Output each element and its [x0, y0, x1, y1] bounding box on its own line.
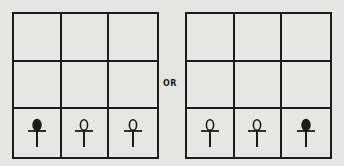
cell-r3-c1 [14, 109, 62, 157]
ankh-hollow-icon [247, 118, 267, 148]
cell-r1-c1 [187, 14, 235, 62]
cell-r3-c2 [235, 109, 283, 157]
cell-r2-c3 [109, 62, 157, 110]
ankh-filled-icon [27, 118, 47, 148]
cell-r1-c3 [109, 14, 157, 62]
cell-r1-c1 [14, 14, 62, 62]
ankh-filled-icon [296, 118, 316, 148]
cell-r1-c2 [235, 14, 283, 62]
cell-r1-c3 [282, 14, 330, 62]
ankh-hollow-icon [200, 118, 220, 148]
cell-r1-c2 [62, 14, 110, 62]
cell-r3-c2 [62, 109, 110, 157]
right-board [185, 12, 332, 159]
left-board [12, 12, 159, 159]
cell-r2-c1 [14, 62, 62, 110]
cell-r3-c1 [187, 109, 235, 157]
cell-r2-c2 [235, 62, 283, 110]
ankh-hollow-icon [74, 118, 94, 148]
cell-r2-c1 [187, 62, 235, 110]
cell-r2-c2 [62, 62, 110, 110]
cell-r3-c3 [109, 109, 157, 157]
cell-r3-c3 [282, 109, 330, 157]
cell-r2-c3 [282, 62, 330, 110]
ankh-hollow-icon [123, 118, 143, 148]
or-label: OR [163, 79, 177, 88]
